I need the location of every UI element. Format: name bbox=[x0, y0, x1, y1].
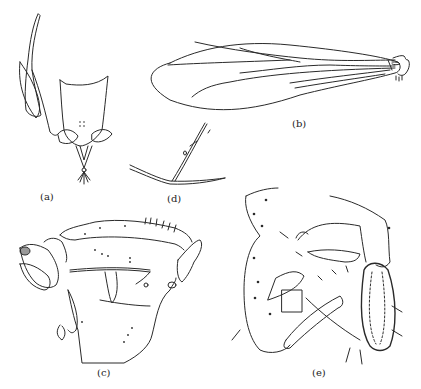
figure-plate: (a) (b) (d) bbox=[0, 0, 421, 389]
panel-e-drawing bbox=[0, 0, 421, 389]
panel-e-label: (e) bbox=[312, 367, 326, 378]
